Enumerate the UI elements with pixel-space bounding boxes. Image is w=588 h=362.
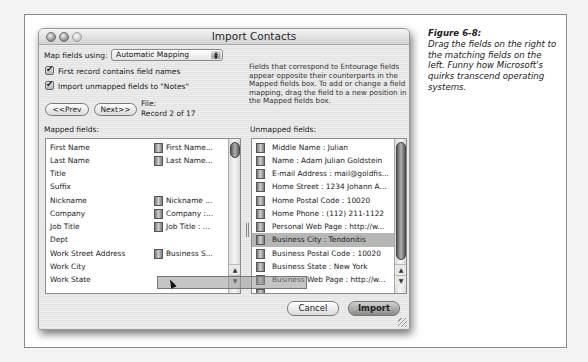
field-icon <box>154 249 163 259</box>
field-icon <box>256 249 265 259</box>
mapped-row[interactable]: First NameFirst Name... <box>46 141 240 155</box>
import-unmapped-label: Import unmapped fields to "Notes" <box>58 82 189 91</box>
unmapped-row[interactable]: Home Street : 1234 Johann A... <box>252 180 406 194</box>
scroll-up-arrow-icon[interactable]: ▲ <box>229 264 241 274</box>
field-icon <box>154 143 163 153</box>
mapped-row[interactable]: Dept <box>46 233 240 247</box>
map-fields-popup[interactable]: Automatic Mapping ▲▼ <box>111 49 223 61</box>
import-contacts-window: Import Contacts Map fields using: Automa… <box>38 28 410 330</box>
mapped-row[interactable]: Work Street AddressBusiness S... <box>46 247 240 261</box>
first-record-checkbox[interactable] <box>45 66 54 75</box>
map-fields-value: Automatic Mapping <box>116 50 189 59</box>
unmapped-row[interactable]: Home Postal Code : 10020 <box>252 194 406 208</box>
scroll-down-arrow-icon[interactable]: ▼ <box>395 275 407 285</box>
drag-ghost-row <box>157 276 307 289</box>
field-icon <box>256 156 265 166</box>
mapped-row[interactable]: Suffix <box>46 180 240 194</box>
scroll-up-arrow-icon[interactable]: ▲ <box>395 264 407 274</box>
field-icon <box>256 209 265 219</box>
unmapped-row-selected[interactable]: Business City : Tendonitis <box>252 233 406 247</box>
unmapped-scrollbar[interactable]: ▲ ▼ <box>394 139 406 293</box>
page: Import Contacts Map fields using: Automa… <box>0 0 588 362</box>
cancel-button[interactable]: Cancel <box>287 301 339 316</box>
field-icon <box>154 209 163 219</box>
unmapped-fields-list[interactable]: Middle Name : Julian Name : Adam Julian … <box>251 138 407 294</box>
file-label: File: <box>141 99 156 108</box>
mapped-row[interactable]: Last NameLast Name... <box>46 154 240 168</box>
mapped-row[interactable]: Work City <box>46 260 240 274</box>
field-icon <box>256 262 265 272</box>
field-icon <box>256 143 265 153</box>
unmapped-row[interactable]: Business Postal Code : 10020 <box>252 247 406 261</box>
unmapped-row[interactable]: Personal Web Page : http://w... <box>252 220 406 234</box>
unmapped-scroll-thumb[interactable] <box>396 142 406 260</box>
field-icon <box>154 196 163 206</box>
unmapped-row[interactable]: Business State : New York <box>252 260 406 274</box>
figure-title: Figure 6-8: <box>428 28 560 39</box>
unmapped-row[interactable]: Name : Adam Julian Goldstein <box>252 154 406 168</box>
field-icon <box>256 222 265 232</box>
figure-caption: Figure 6-8: Drag the fields on the right… <box>428 28 560 93</box>
mapped-row[interactable]: Title <box>46 167 240 181</box>
field-icon <box>256 235 265 245</box>
field-icon <box>154 222 163 232</box>
window-title: Import Contacts <box>39 30 409 42</box>
record-label: Record 2 of 17 <box>141 109 196 118</box>
field-icon <box>256 289 265 294</box>
field-icon <box>256 196 265 206</box>
unmapped-fields-label: Unmapped fields: <box>250 125 316 134</box>
window-body: Map fields using: Automatic Mapping ▲▼ F… <box>39 45 409 329</box>
next-button[interactable]: Next>> <box>94 103 137 116</box>
mapped-fields-label: Mapped fields: <box>44 125 99 134</box>
field-icon <box>154 156 163 166</box>
title-bar[interactable]: Import Contacts <box>39 29 409 45</box>
field-icon <box>256 169 265 179</box>
import-unmapped-checkbox[interactable] <box>45 81 54 90</box>
mapped-scroll-thumb[interactable] <box>230 142 240 158</box>
unmapped-row[interactable]: Middle Name : Julian <box>252 141 406 155</box>
mapped-row[interactable]: CompanyCompany :... <box>46 207 240 221</box>
mapped-row[interactable]: NicknameNickname ... <box>46 194 240 208</box>
unmapped-row[interactable]: Home Phone : (112) 211-1122 <box>252 207 406 221</box>
figure-text: Drag the fields on the right to the matc… <box>428 39 556 92</box>
mapped-row[interactable]: Job TitleJob Title : ... <box>46 220 240 234</box>
instructions-text: Fields that correspond to Entourage fiel… <box>249 63 407 106</box>
split-divider-handle[interactable] <box>246 223 249 237</box>
prev-button[interactable]: <<Prev <box>45 103 89 116</box>
popup-arrows-icon: ▲▼ <box>211 51 221 59</box>
map-fields-label: Map fields using: <box>44 51 107 60</box>
mapped-scrollbar[interactable]: ▲ ▼ <box>228 139 240 293</box>
first-record-label: First record contains field names <box>58 67 180 76</box>
import-button[interactable]: Import <box>348 301 400 316</box>
unmapped-row[interactable]: E-mail Address : mail@goldfis... <box>252 167 406 181</box>
field-icon <box>256 182 265 192</box>
mapped-fields-list[interactable]: First NameFirst Name... Last NameLast Na… <box>45 138 241 294</box>
resize-grip-icon[interactable] <box>398 318 407 327</box>
